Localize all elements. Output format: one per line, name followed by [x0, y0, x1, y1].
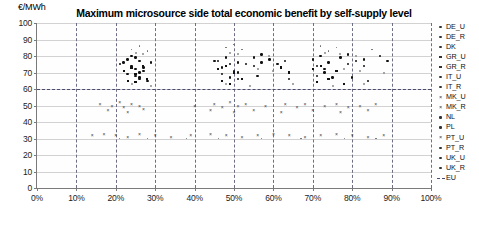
- data-point-it_u: [276, 63, 278, 65]
- data-point-pt_u: [126, 135, 130, 139]
- y-axis-tick-mark: [34, 73, 37, 74]
- legend-marker-dot-icon: [436, 82, 445, 92]
- legend-item-gr_u[interactable]: GR_U: [436, 51, 479, 61]
- data-point-mk_r: [126, 110, 130, 114]
- data-point-mk_u: [283, 102, 287, 106]
- legend-marker-dot-icon: [436, 72, 445, 82]
- data-point-pt_u: [169, 135, 173, 139]
- data-point-gr_u: [123, 70, 125, 72]
- data-point-de_r: [316, 75, 318, 77]
- data-point-mk_u: [295, 105, 299, 109]
- vertical-gridline: [431, 23, 432, 188]
- legend-marker-dashed-line-icon: [436, 172, 445, 182]
- data-point-pl: [332, 85, 334, 87]
- vertical-gridline: [352, 23, 353, 188]
- legend-item-pl[interactable]: PL: [436, 122, 479, 132]
- y-axis-tick-mark: [34, 139, 37, 140]
- data-point-dk: [371, 49, 372, 50]
- x-axis-tick-label: 60%: [253, 193, 293, 203]
- data-point-gr_u: [225, 65, 227, 67]
- legend-item-de_r[interactable]: DE_R: [436, 31, 479, 41]
- legend-label: UK_R: [445, 163, 465, 172]
- legend-item-uk_r[interactable]: UK_R: [436, 162, 479, 172]
- legend-label: NL: [445, 112, 455, 121]
- data-point-uk_u: [363, 58, 365, 60]
- y-axis-tick-mark: [34, 40, 37, 41]
- data-point-pt_u: [287, 133, 291, 137]
- data-point-gr_u: [312, 68, 314, 70]
- data-point-gr_r: [241, 78, 243, 80]
- data-point-pt_u: [240, 135, 244, 139]
- data-point-pt_r: [375, 138, 376, 139]
- x-axis-tick-mark: [431, 188, 432, 191]
- data-point-pt_u: [102, 132, 106, 136]
- x-axis-tick-label: 40%: [175, 193, 215, 203]
- x-axis-tick-label: 30%: [135, 193, 175, 203]
- legend-label: IT_R: [445, 82, 461, 91]
- plot-inner: [37, 23, 431, 188]
- x-axis-tick-mark: [76, 188, 77, 191]
- data-point-gr_r: [127, 80, 129, 82]
- x-axis-tick-mark: [195, 188, 196, 191]
- x-axis-tick-mark: [273, 188, 274, 191]
- legend-item-pt_r[interactable]: PT_R: [436, 142, 479, 152]
- data-point-pl: [363, 83, 365, 85]
- data-point-de_u: [316, 65, 318, 67]
- legend-label: DE_R: [445, 32, 465, 41]
- data-point-pt_u: [303, 135, 307, 139]
- data-point-pt_r: [300, 138, 301, 139]
- data-point-dk: [320, 45, 321, 46]
- legend-item-de_u[interactable]: DE_U: [436, 21, 479, 31]
- data-point-dk: [147, 50, 148, 51]
- vertical-gridline: [313, 23, 314, 188]
- legend-item-mk_u[interactable]: ×MK_U: [436, 92, 479, 102]
- legend-item-it_r[interactable]: IT_R: [436, 82, 479, 92]
- legend-marker-square-icon: [436, 61, 445, 71]
- data-point-mk_u: [220, 105, 224, 109]
- y-axis-tick-mark: [34, 23, 37, 24]
- data-point-de_u: [126, 58, 128, 60]
- data-point-pt_u: [189, 133, 193, 137]
- vertical-gridline: [392, 23, 393, 188]
- data-point-uk_r: [383, 72, 385, 74]
- legend-item-mk_r[interactable]: ×MK_R: [436, 102, 479, 112]
- legend-label: DK: [445, 42, 456, 51]
- legend-item-gr_r[interactable]: GR_R: [436, 61, 479, 71]
- data-point-de_u: [319, 55, 321, 57]
- legend-item-nl[interactable]: NL: [436, 112, 479, 122]
- legend-item-eu[interactable]: EU: [436, 172, 479, 182]
- data-point-it_u: [253, 65, 255, 67]
- legend-item-it_u[interactable]: IT_U: [436, 71, 479, 81]
- data-point-pt_u: [271, 132, 275, 136]
- data-point-gr_u: [134, 73, 136, 75]
- data-point-de_u: [323, 68, 325, 70]
- legend-label: PL: [445, 122, 455, 131]
- y-axis-tick-mark: [34, 122, 37, 123]
- y-axis-tick-mark: [34, 106, 37, 107]
- legend-item-dk[interactable]: DK: [436, 41, 479, 51]
- data-point-de_u: [138, 71, 140, 73]
- data-point-mk_u: [323, 104, 327, 108]
- legend-item-uk_u[interactable]: UK_U: [436, 152, 479, 162]
- legend-label: UK_U: [445, 153, 465, 162]
- data-point-dk: [241, 49, 242, 50]
- legend-marker-dot-icon: [436, 21, 445, 31]
- data-point-dk: [233, 44, 234, 45]
- legend-label: DE_U: [445, 22, 465, 31]
- data-point-mk_u: [236, 104, 240, 108]
- vertical-gridline: [234, 23, 235, 188]
- data-point-de_u: [221, 66, 223, 68]
- data-point-de_r: [142, 70, 144, 72]
- y-axis-tick-label: 50: [0, 101, 32, 111]
- data-point-gr_r: [327, 78, 329, 80]
- data-point-it_r: [146, 80, 148, 82]
- y-axis-tick-mark: [34, 172, 37, 173]
- vertical-gridline: [273, 23, 274, 188]
- data-point-gr_u: [142, 65, 144, 67]
- data-point-it_u: [284, 60, 286, 62]
- y-axis-tick-label: 30: [0, 134, 32, 144]
- data-point-mk_u: [334, 102, 338, 106]
- legend-marker-light-icon: [436, 122, 445, 132]
- data-point-gr_u: [288, 71, 290, 73]
- legend-item-pt_u[interactable]: ×PT_U: [436, 132, 479, 142]
